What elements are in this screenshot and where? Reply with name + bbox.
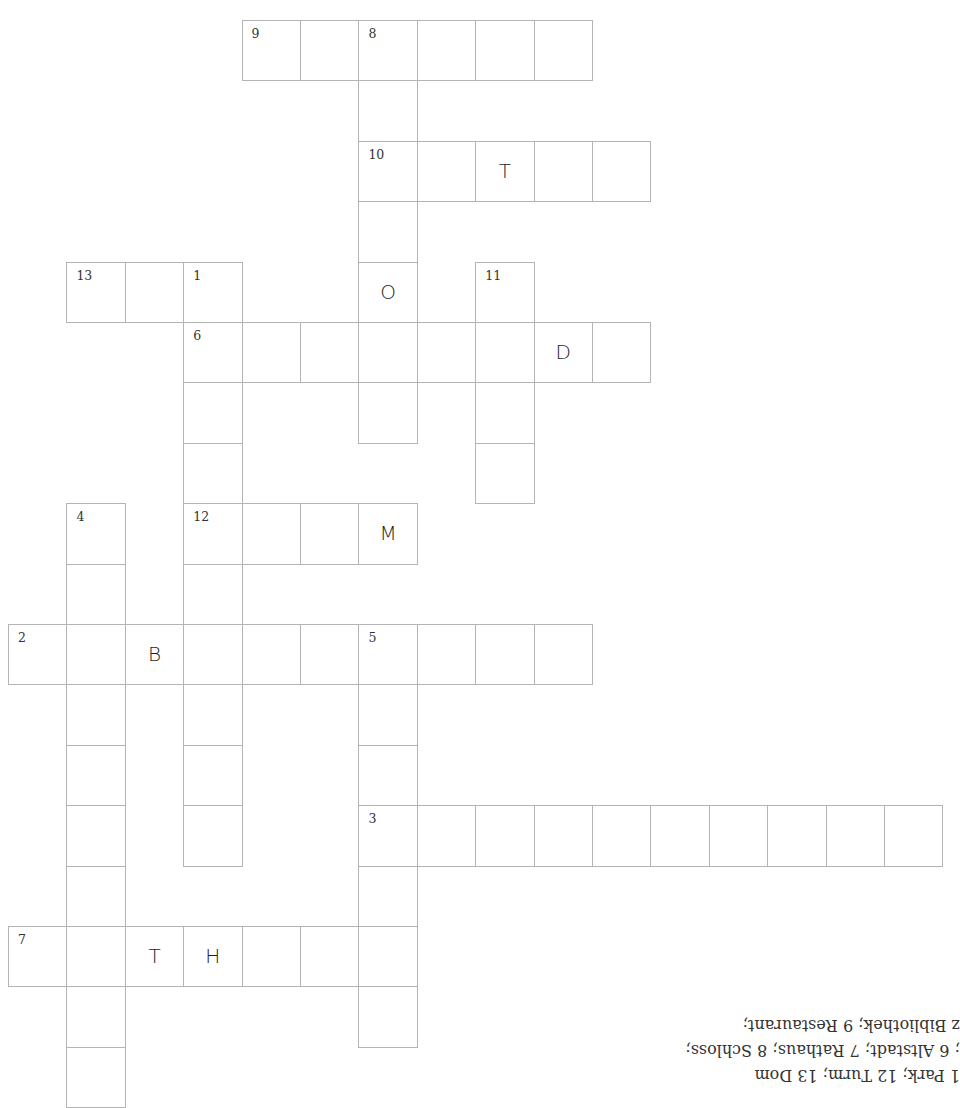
crossword-cell[interactable] xyxy=(475,382,534,443)
crossword-cell[interactable] xyxy=(183,564,242,625)
crossword-cell[interactable] xyxy=(358,866,417,927)
crossword-cell[interactable]: 9 xyxy=(242,20,301,81)
crossword-cell[interactable] xyxy=(592,805,651,866)
crossword-cell[interactable]: 8 xyxy=(358,20,417,81)
crossword-cell[interactable] xyxy=(534,141,593,202)
clue-number: 5 xyxy=(368,630,376,645)
crossword-cell[interactable]: M xyxy=(358,503,417,564)
crossword-cell[interactable] xyxy=(66,805,125,866)
crossword-cell[interactable]: 5 xyxy=(358,624,417,685)
clue-number: 1 xyxy=(193,268,201,283)
crossword-cell[interactable] xyxy=(66,624,125,685)
crossword-cell[interactable] xyxy=(242,503,301,564)
crossword-cell[interactable]: H xyxy=(183,926,242,987)
crossword-cell[interactable] xyxy=(417,20,476,81)
crossword-cell[interactable] xyxy=(300,926,359,987)
crossword-cell[interactable] xyxy=(358,745,417,806)
crossword-cell[interactable] xyxy=(650,805,709,866)
crossword-cell[interactable] xyxy=(300,322,359,383)
filled-letter: H xyxy=(184,944,241,968)
crossword-cell[interactable] xyxy=(66,986,125,1047)
crossword-cell[interactable] xyxy=(66,866,125,927)
filled-letter: B xyxy=(126,642,183,666)
crossword-cell[interactable]: 4 xyxy=(66,503,125,564)
crossword-cell[interactable] xyxy=(475,805,534,866)
answer-key-line: 1 Park; 12 Turm; 13 Dom xyxy=(540,1063,960,1088)
crossword-cell[interactable] xyxy=(534,624,593,685)
filled-letter: T xyxy=(126,944,183,968)
crossword-cell[interactable] xyxy=(183,624,242,685)
crossword-cell[interactable] xyxy=(242,322,301,383)
crossword-cell[interactable] xyxy=(709,805,768,866)
crossword-cell[interactable]: 11 xyxy=(475,262,534,323)
crossword-cell[interactable]: 10 xyxy=(358,141,417,202)
crossword-cell[interactable]: 1 xyxy=(183,262,242,323)
crossword-cell[interactable] xyxy=(417,805,476,866)
clue-number: 7 xyxy=(18,932,26,947)
crossword-cell[interactable] xyxy=(358,382,417,443)
crossword-cell[interactable]: 6 xyxy=(183,322,242,383)
crossword-cell[interactable] xyxy=(358,322,417,383)
crossword-cell[interactable]: 7 xyxy=(8,926,67,987)
clue-number: 6 xyxy=(193,328,201,343)
crossword-cell[interactable] xyxy=(826,805,885,866)
crossword-cell[interactable] xyxy=(183,443,242,504)
clue-number: 10 xyxy=(368,147,384,162)
clue-number: 11 xyxy=(485,268,501,283)
crossword-cell[interactable] xyxy=(125,262,184,323)
crossword-cell[interactable]: O xyxy=(358,262,417,323)
crossword-cell[interactable] xyxy=(534,805,593,866)
answer-key-line: ; 6 Altstadt; 7 Rathaus; 8 Schloss; xyxy=(540,1038,960,1063)
crossword-cell[interactable] xyxy=(475,322,534,383)
crossword-cell[interactable] xyxy=(417,322,476,383)
crossword-cell[interactable] xyxy=(475,443,534,504)
crossword-cell[interactable]: 3 xyxy=(358,805,417,866)
clue-number: 2 xyxy=(18,630,26,645)
crossword-cell[interactable]: D xyxy=(534,322,593,383)
crossword-cell[interactable] xyxy=(417,141,476,202)
clue-number: 3 xyxy=(368,811,376,826)
crossword-cell[interactable] xyxy=(183,684,242,745)
clue-number: 4 xyxy=(76,509,84,524)
crossword-cell[interactable] xyxy=(66,926,125,987)
crossword-cell[interactable] xyxy=(183,805,242,866)
crossword-cell[interactable] xyxy=(300,624,359,685)
crossword-cell[interactable] xyxy=(358,80,417,141)
crossword-cell[interactable] xyxy=(358,926,417,987)
clue-number: 12 xyxy=(193,509,209,524)
clue-number: 13 xyxy=(76,268,92,283)
filled-letter: O xyxy=(359,280,416,304)
crossword-cell[interactable] xyxy=(592,322,651,383)
crossword-cell[interactable] xyxy=(592,141,651,202)
crossword-cell[interactable] xyxy=(358,201,417,262)
crossword-cell[interactable]: B xyxy=(125,624,184,685)
crossword-cell[interactable] xyxy=(358,986,417,1047)
crossword-cell[interactable] xyxy=(183,745,242,806)
answer-key-line: z Bibliothek; 9 Restaurant; xyxy=(540,1013,960,1038)
crossword-cell[interactable] xyxy=(475,624,534,685)
clue-number: 8 xyxy=(368,26,376,41)
crossword-cell[interactable] xyxy=(767,805,826,866)
crossword-cell[interactable] xyxy=(66,564,125,625)
crossword-cell[interactable]: 2 xyxy=(8,624,67,685)
crossword-cell[interactable] xyxy=(66,1047,125,1108)
crossword-cell[interactable] xyxy=(358,684,417,745)
crossword-cell[interactable]: 13 xyxy=(66,262,125,323)
crossword-cell[interactable] xyxy=(534,20,593,81)
crossword-cell[interactable]: T xyxy=(475,141,534,202)
filled-letter: D xyxy=(535,340,592,364)
crossword-cell[interactable] xyxy=(475,20,534,81)
crossword-cell[interactable] xyxy=(300,20,359,81)
crossword-cell[interactable]: T xyxy=(125,926,184,987)
crossword-cell[interactable]: 12 xyxy=(183,503,242,564)
crossword-cell[interactable] xyxy=(242,624,301,685)
crossword-cell[interactable] xyxy=(242,926,301,987)
crossword-cell[interactable] xyxy=(66,745,125,806)
crossword-cell[interactable] xyxy=(417,624,476,685)
filled-letter: T xyxy=(476,159,533,183)
crossword-cell[interactable] xyxy=(300,503,359,564)
crossword-cell[interactable] xyxy=(183,382,242,443)
crossword-cell[interactable] xyxy=(884,805,943,866)
crossword-cell[interactable] xyxy=(66,684,125,745)
